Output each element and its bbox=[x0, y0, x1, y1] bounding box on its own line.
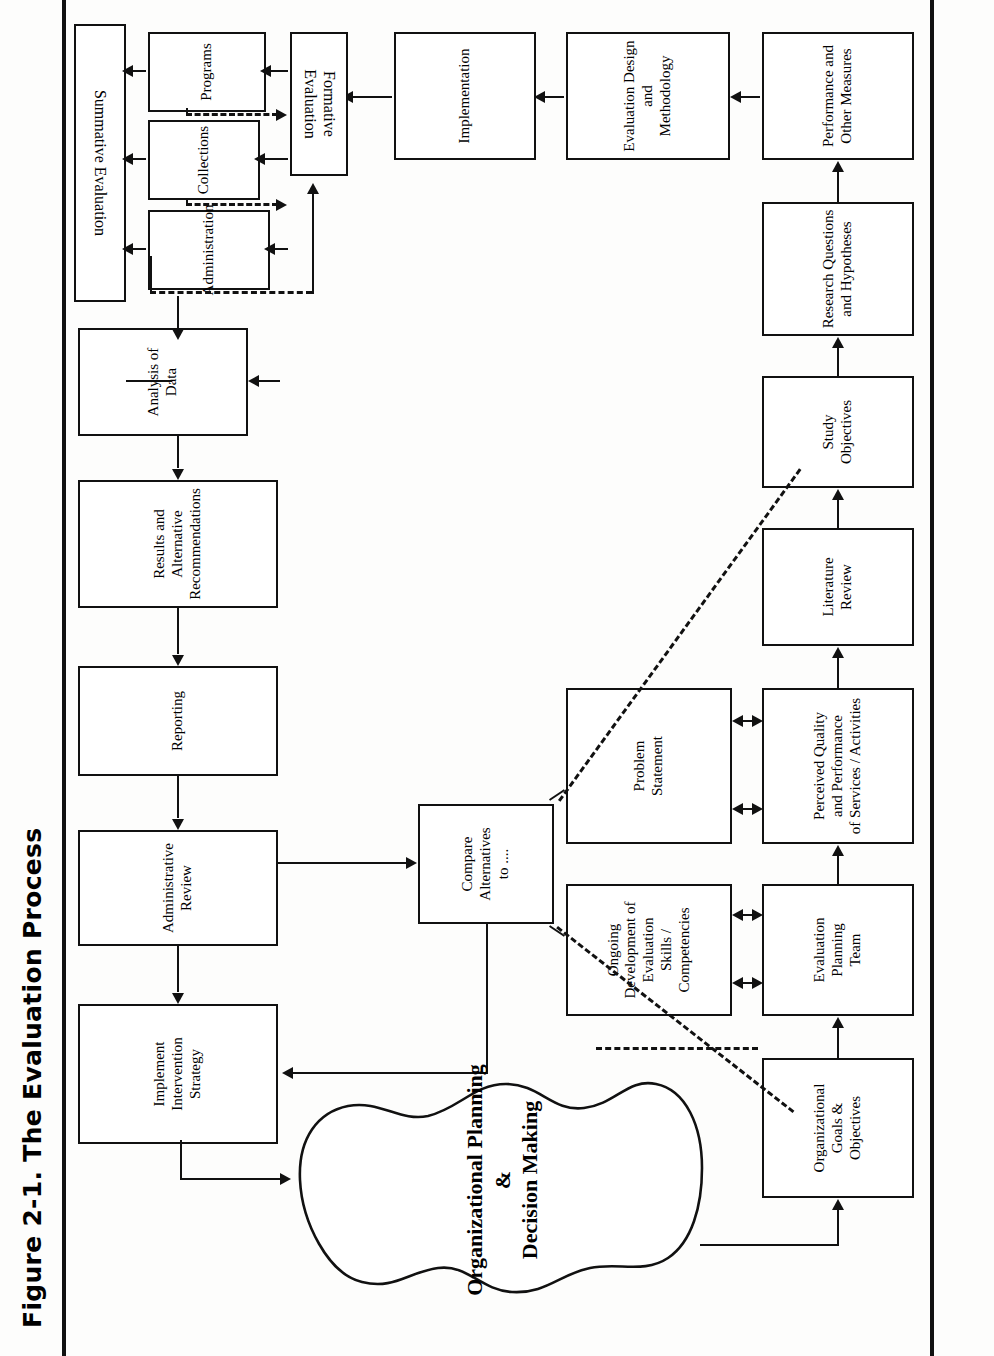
dashed-loop-vertical bbox=[150, 291, 312, 294]
arrowhead-literature-to-study bbox=[832, 489, 844, 500]
arrowhead-formative-collections bbox=[254, 153, 265, 165]
connector-adminreview-to-compare bbox=[278, 862, 406, 864]
arrowhead-blob-to-goals bbox=[832, 1199, 844, 1210]
node-administration-box: Administration bbox=[148, 210, 270, 290]
node-study-objectives: StudyObjectives bbox=[762, 376, 914, 488]
arrowhead-team-ongoing-right-up bbox=[732, 909, 743, 921]
arrowhead-quality-problem-left-down bbox=[752, 803, 763, 815]
title-rule bbox=[62, 0, 66, 1356]
arrowhead-quality-problem-right-down bbox=[752, 715, 763, 727]
connector-analysis-to-results bbox=[177, 436, 179, 468]
connector-blob-to-goals bbox=[837, 1210, 839, 1246]
dashed-stub-programs bbox=[186, 108, 188, 116]
connector-goals-to-team bbox=[837, 1028, 839, 1058]
connector-reporting-to-adminreview bbox=[177, 776, 179, 818]
connector-formative-programs bbox=[268, 70, 288, 72]
figure-page: Figure 2-1. The Evaluation Process Organ… bbox=[0, 0, 994, 1356]
connector-team-to-quality bbox=[837, 856, 839, 884]
arrowhead-dashed-feedback-programs bbox=[276, 109, 287, 121]
arrowhead-results-to-reporting bbox=[172, 655, 184, 666]
connector-blob-down bbox=[700, 1244, 838, 1246]
connector-adminreview-to-implement bbox=[177, 946, 179, 992]
dashed-stub-collections bbox=[186, 198, 188, 206]
blob-label: Organizational Planning&Decision Making bbox=[461, 1062, 544, 1298]
node-evaluation-design: Evaluation Design andMethodology bbox=[566, 32, 730, 160]
connector-implementation-to-formative bbox=[350, 96, 392, 98]
dashed-feedback-programs bbox=[186, 113, 278, 116]
dashed-separator-goals bbox=[596, 1047, 758, 1050]
arrowhead-formative-administration bbox=[264, 243, 275, 255]
arrowhead-compare-to-implement bbox=[282, 1067, 293, 1079]
arrowhead-adminreview-to-compare bbox=[406, 857, 417, 869]
arrowhead-administration-to-summative bbox=[122, 243, 133, 255]
node-organizational-goals: OrganizationalGoals &Objectives bbox=[762, 1058, 914, 1198]
connector-implement-loop-v bbox=[180, 1178, 280, 1180]
arrowhead-design-to-implementation bbox=[534, 91, 545, 103]
arrowhead-collections-to-summative bbox=[122, 153, 133, 165]
arrowhead-research-to-performance bbox=[832, 161, 844, 172]
node-research-questions: Research Questionsand Hypotheses bbox=[762, 202, 914, 336]
node-programs: Programs bbox=[148, 32, 266, 112]
connector-research-to-performance bbox=[837, 172, 839, 202]
connector-quality-to-literature bbox=[837, 658, 839, 688]
node-summative-evaluation: Summative Evaluation bbox=[74, 24, 126, 302]
arrowhead-performance-to-design bbox=[730, 91, 741, 103]
arrowhead-programs-to-summative bbox=[122, 65, 133, 77]
connector-summative-to-analysis bbox=[177, 296, 179, 328]
arrowhead-goals-to-team bbox=[832, 1017, 844, 1028]
arrowhead-adminreview-to-implement bbox=[172, 993, 184, 1004]
node-analysis-of-data-main: Analysis of Data bbox=[78, 328, 248, 436]
node-organizational-planning-blob: Organizational Planning&Decision Making bbox=[296, 1062, 708, 1298]
dashed-feedback-collections bbox=[186, 203, 278, 206]
node-collections-box: Collections bbox=[148, 120, 260, 200]
connector-design-to-implementation bbox=[542, 96, 564, 98]
connector-study-to-research bbox=[837, 348, 839, 376]
bottom-frame-rule bbox=[930, 0, 934, 1356]
connector-results-to-reporting bbox=[177, 608, 179, 654]
connector-literature-to-study bbox=[837, 500, 839, 528]
arrowhead-team-to-quality bbox=[832, 845, 844, 856]
node-problem-statement: ProblemStatement bbox=[566, 688, 732, 844]
node-implement-intervention: ImplementInterventionStrategy bbox=[78, 1004, 278, 1144]
arrowhead-study-to-research bbox=[832, 337, 844, 348]
arrowhead-team-ongoing-left-down bbox=[752, 977, 763, 989]
node-results-alternatives: Results andAlternativeRecommendations bbox=[78, 480, 278, 608]
figure-title: Figure 2-1. The Evaluation Process bbox=[18, 828, 47, 1328]
node-compare-alternatives: CompareAlternativesto .... bbox=[418, 804, 554, 924]
node-formative-evaluation: Formative Evaluation bbox=[290, 32, 348, 176]
node-performance-measures: Performance andOther Measures bbox=[762, 32, 914, 160]
arrowhead-dashed-feedback-collections bbox=[276, 199, 287, 211]
connector-compare-to-implement-h bbox=[486, 924, 488, 1074]
connector-summative-stem bbox=[250, 380, 280, 382]
arrowhead-implement-loop-to-blob bbox=[280, 1173, 291, 1185]
connector-summative-up bbox=[126, 380, 172, 382]
arrowhead-analysis-to-results bbox=[172, 469, 184, 480]
connector-implement-loop-h bbox=[180, 1140, 182, 1180]
connector-dashed-loop-into-formative bbox=[312, 186, 314, 294]
arrowhead-formative-programs bbox=[260, 65, 271, 77]
arrowhead-quality-problem-left-up bbox=[732, 803, 743, 815]
node-literature-review: LiteratureReview bbox=[762, 528, 914, 646]
dashed-loop-top-stub bbox=[150, 256, 152, 294]
arrowhead-team-ongoing-left-up bbox=[732, 977, 743, 989]
arrowhead-quality-problem-right-up bbox=[732, 715, 743, 727]
node-administrative-review: AdministrativeReview bbox=[78, 830, 278, 946]
arrowhead-quality-to-literature bbox=[832, 647, 844, 658]
arrowhead-reporting-to-adminreview bbox=[172, 819, 184, 830]
arrowhead-summative-to-analysis bbox=[172, 329, 184, 340]
connector-performance-to-design bbox=[738, 96, 760, 98]
node-reporting: Reporting bbox=[78, 666, 278, 776]
node-implementation: Implementation bbox=[394, 32, 536, 160]
arrowhead-team-ongoing-right-down bbox=[752, 909, 763, 921]
arrowhead-dashed-loop-into-formative bbox=[307, 183, 319, 194]
node-evaluation-planning-team: EvaluationPlanningTeam bbox=[762, 884, 914, 1016]
connector-formative-collections bbox=[262, 158, 288, 160]
node-perceived-quality: Perceived Qualityand Performanceof Servi… bbox=[762, 688, 914, 844]
diagram-stage: Figure 2-1. The Evaluation Process Organ… bbox=[0, 0, 994, 1356]
